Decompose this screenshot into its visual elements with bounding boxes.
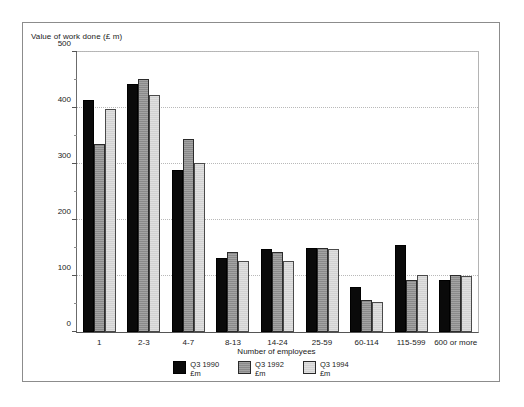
- legend-label: Q3 1990£m: [190, 360, 219, 379]
- legend-item: Q3 1992£m: [238, 360, 284, 379]
- bar: [272, 252, 283, 332]
- legend-swatch-icon: [173, 361, 186, 374]
- bar-groups: 12-34-78-1314-2425-5960-114115-599600 or…: [77, 52, 478, 332]
- bar: [361, 300, 372, 332]
- x-tick-label: 14-24: [267, 339, 287, 347]
- bar: [127, 84, 138, 332]
- x-tick-label: 115-599: [397, 339, 426, 347]
- bar: [261, 249, 272, 332]
- bar: [172, 170, 183, 332]
- bar: [183, 139, 194, 332]
- x-tick-label: 60-114: [354, 339, 378, 347]
- bar: [94, 144, 105, 332]
- chart-figure: Value of work done (£ m) 010020030040050…: [22, 22, 500, 382]
- bar-group: 25-59: [300, 52, 345, 332]
- bar: [83, 100, 94, 332]
- bar: [461, 276, 472, 332]
- bar: [306, 248, 317, 332]
- legend-label: Q3 1992£m: [255, 360, 284, 379]
- legend-series-name: Q3 1994: [320, 360, 349, 369]
- bar: [350, 287, 361, 332]
- y-tick-label-500: 500: [37, 40, 71, 48]
- bar: [216, 258, 227, 332]
- legend-series-unit: £m: [190, 369, 219, 378]
- x-tick-label: 25-59: [312, 339, 332, 347]
- bar: [450, 275, 461, 332]
- bar: [372, 302, 383, 332]
- bar: [317, 248, 328, 332]
- bar: [227, 252, 238, 332]
- y-tick-label-400: 400: [37, 96, 71, 104]
- bar-group: 14-24: [255, 52, 300, 332]
- legend-series-name: Q3 1992: [255, 360, 284, 369]
- bar-group: 600 or more: [433, 52, 478, 332]
- legend-label: Q3 1994£m: [320, 360, 349, 379]
- bar: [395, 245, 406, 332]
- x-tick-label: 2-3: [138, 339, 150, 347]
- legend-item: Q3 1990£m: [173, 360, 219, 379]
- bar-group: 115-599: [389, 52, 434, 332]
- bar: [138, 79, 149, 332]
- legend-swatch-icon: [238, 361, 251, 374]
- legend-swatch-icon: [303, 361, 316, 374]
- bar: [406, 280, 417, 332]
- chart-legend: Q3 1990£mQ3 1992£mQ3 1994£m: [23, 360, 499, 379]
- y-tick-label-300: 300: [37, 152, 71, 160]
- bar: [238, 261, 249, 332]
- bar: [439, 280, 450, 332]
- bar: [149, 95, 160, 332]
- bar: [417, 275, 428, 332]
- y-tick-label-200: 200: [37, 208, 71, 216]
- bar-group: 8-13: [211, 52, 256, 332]
- legend-series-unit: £m: [320, 369, 349, 378]
- bar: [283, 261, 294, 332]
- bar-group: 60-114: [344, 52, 389, 332]
- bar-group: 1: [77, 52, 122, 332]
- x-tick-label: 1: [97, 339, 101, 347]
- bar-group: 2-3: [122, 52, 167, 332]
- y-tick-label-0: 0: [37, 320, 71, 328]
- bar-group: 4-7: [166, 52, 211, 332]
- plot-area: 0100200300400500 12-34-78-1314-2425-5960…: [76, 51, 479, 333]
- legend-series-unit: £m: [255, 369, 284, 378]
- legend-item: Q3 1994£m: [303, 360, 349, 379]
- x-tick-label: 4-7: [183, 339, 195, 347]
- y-tick-label-100: 100: [37, 264, 71, 272]
- bar: [194, 163, 205, 332]
- x-axis-label: Number of employees: [76, 347, 477, 356]
- x-tick-label: 600 or more: [434, 339, 477, 347]
- x-tick-label: 8-13: [225, 339, 241, 347]
- bar: [328, 249, 339, 332]
- bar: [105, 109, 116, 332]
- legend-series-name: Q3 1990: [190, 360, 219, 369]
